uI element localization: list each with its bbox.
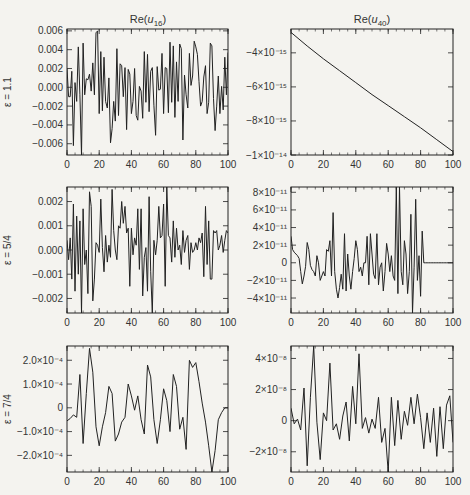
row-label-1: ε = 1.1 bbox=[2, 77, 13, 107]
y-tick-label: 0 bbox=[281, 415, 287, 426]
x-tick-label: 100 bbox=[220, 476, 237, 487]
x-tick-label: 40 bbox=[126, 159, 138, 170]
x-tick-label: 40 bbox=[350, 317, 362, 328]
y-tick-label: 2×10⁻¹¹ bbox=[253, 240, 288, 251]
y-tick-label: −2×10⁻⁸ bbox=[249, 446, 287, 457]
x-tick-label: 80 bbox=[415, 476, 427, 487]
y-tick-label: 4×10⁻⁸ bbox=[255, 353, 287, 364]
x-tick-label: 100 bbox=[445, 317, 462, 328]
data-line bbox=[291, 32, 453, 151]
x-tick-label: 60 bbox=[383, 159, 395, 170]
panel-row3-right: 020406080100−2×10⁻⁸02×10⁻⁸4×10⁻⁸ bbox=[249, 346, 461, 487]
x-tick-label: 0 bbox=[64, 159, 70, 170]
x-tick-label: 20 bbox=[94, 159, 106, 170]
x-tick-label: 0 bbox=[64, 317, 70, 328]
y-tick-label: 8×10⁻¹¹ bbox=[253, 187, 288, 198]
x-tick-label: 80 bbox=[190, 317, 202, 328]
column-title-left: Re(u16) bbox=[130, 13, 166, 28]
x-tick-label: 20 bbox=[318, 476, 330, 487]
panel-row2-left: 020406080100−0.002−0.0010.0000.0010.002 bbox=[32, 187, 237, 328]
column-title-right: Re(u40) bbox=[354, 13, 390, 28]
panels: 020406080100−0.006−0.004−0.0020.0000.002… bbox=[17, 25, 462, 487]
y-tick-label: −0.002 bbox=[32, 101, 63, 112]
y-tick-label: 0.002 bbox=[38, 196, 63, 207]
y-tick-label: 0.000 bbox=[38, 82, 63, 93]
plot-frame bbox=[291, 29, 453, 155]
data-line bbox=[67, 31, 228, 155]
y-tick-label: 0 bbox=[57, 402, 63, 413]
y-tick-label: −1.0×10⁻⁴ bbox=[17, 426, 63, 437]
x-tick-label: 40 bbox=[350, 159, 362, 170]
data-line bbox=[291, 187, 453, 313]
x-tick-label: 80 bbox=[190, 476, 202, 487]
x-tick-label: 20 bbox=[318, 317, 330, 328]
y-tick-label: −4×10⁻¹⁵ bbox=[246, 47, 287, 58]
x-tick-label: 80 bbox=[190, 159, 202, 170]
y-tick-label: 2×10⁻⁸ bbox=[255, 384, 287, 395]
x-tick-label: 100 bbox=[445, 159, 462, 170]
x-tick-label: 60 bbox=[158, 476, 170, 487]
data-line bbox=[67, 348, 228, 472]
x-tick-label: 40 bbox=[126, 476, 138, 487]
panel-row2-right: 020406080100−4×10⁻¹¹−2×10⁻¹¹02×10⁻¹¹4×10… bbox=[247, 187, 462, 328]
data-line bbox=[291, 346, 453, 472]
x-tick-label: 60 bbox=[158, 159, 170, 170]
x-tick-label: 20 bbox=[318, 159, 330, 170]
panel-row1-left: 020406080100−0.006−0.004−0.0020.0000.002… bbox=[32, 25, 237, 170]
y-tick-label: −0.002 bbox=[32, 293, 63, 304]
y-tick-label: 0 bbox=[281, 257, 287, 268]
y-tick-label: 6×10⁻¹¹ bbox=[253, 204, 288, 215]
y-tick-label: 0.001 bbox=[38, 220, 63, 231]
x-tick-label: 60 bbox=[383, 476, 395, 487]
y-tick-label: 4×10⁻¹¹ bbox=[253, 222, 288, 233]
x-tick-label: 100 bbox=[220, 159, 237, 170]
y-tick-label: 0.006 bbox=[38, 25, 63, 36]
x-tick-label: 20 bbox=[94, 476, 106, 487]
x-tick-label: 40 bbox=[350, 476, 362, 487]
y-tick-label: −0.004 bbox=[32, 119, 63, 130]
y-tick-label: −0.001 bbox=[32, 269, 63, 280]
plot-frame bbox=[67, 346, 228, 472]
x-tick-label: 80 bbox=[415, 317, 427, 328]
x-tick-label: 80 bbox=[415, 159, 427, 170]
plot-frame bbox=[291, 346, 453, 472]
y-tick-label: −2.0×10⁻⁴ bbox=[17, 450, 63, 461]
y-tick-label: 2.0×10⁻⁴ bbox=[23, 355, 63, 366]
y-tick-label: −8×10⁻¹⁵ bbox=[246, 115, 287, 126]
y-tick-label: −2×10⁻¹¹ bbox=[247, 275, 288, 286]
row-label-3: ε = 7/4 bbox=[2, 394, 13, 424]
data-line bbox=[67, 187, 228, 313]
y-tick-label: 0.000 bbox=[38, 245, 63, 256]
x-tick-label: 100 bbox=[220, 317, 237, 328]
y-tick-label: −4×10⁻¹¹ bbox=[247, 293, 288, 304]
y-tick-label: 1.0×10⁻⁴ bbox=[23, 379, 63, 390]
row-label-2: ε = 5/4 bbox=[2, 235, 13, 265]
y-tick-label: −0.006 bbox=[32, 138, 63, 149]
y-tick-label: −6×10⁻¹⁵ bbox=[246, 81, 287, 92]
x-tick-label: 0 bbox=[64, 476, 70, 487]
x-tick-label: 0 bbox=[288, 476, 294, 487]
plot-frame bbox=[67, 29, 228, 155]
panel-row1-right: 020406080100−1×10⁻¹⁴−8×10⁻¹⁵−6×10⁻¹⁵−4×1… bbox=[246, 29, 462, 170]
panel-row3-left: 020406080100−2.0×10⁻⁴−1.0×10⁻⁴01.0×10⁻⁴2… bbox=[17, 346, 237, 487]
x-tick-label: 40 bbox=[126, 317, 138, 328]
y-tick-label: 0.004 bbox=[38, 44, 63, 55]
x-tick-label: 60 bbox=[383, 317, 395, 328]
x-tick-label: 0 bbox=[288, 317, 294, 328]
x-tick-label: 100 bbox=[445, 476, 462, 487]
x-tick-label: 60 bbox=[158, 317, 170, 328]
x-tick-label: 0 bbox=[288, 159, 294, 170]
y-tick-label: −1×10⁻¹⁴ bbox=[246, 150, 287, 161]
y-tick-label: 0.002 bbox=[38, 63, 63, 74]
figure-canvas: Re(u16) Re(u40) ε = 1.1 ε = 5/4 ε = 7/4 … bbox=[0, 0, 470, 495]
x-tick-label: 20 bbox=[94, 317, 106, 328]
